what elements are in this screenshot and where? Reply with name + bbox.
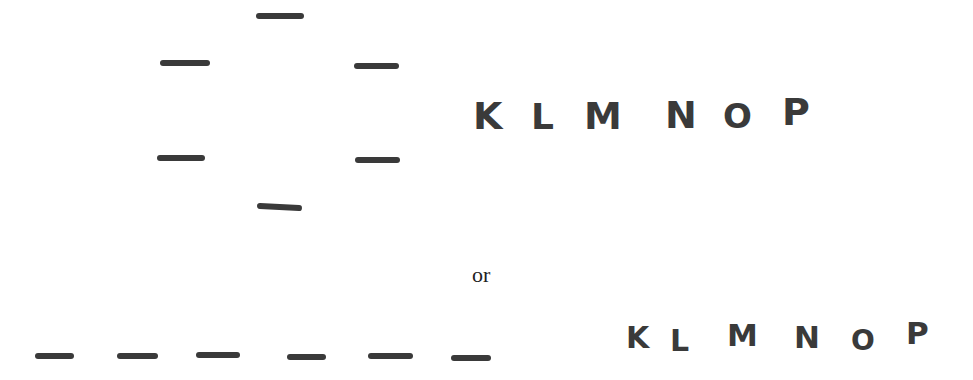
letter-l-top: L	[531, 99, 554, 135]
letter-p-top: P	[782, 93, 810, 131]
blank-line-6	[451, 355, 491, 361]
blank-circle-top	[256, 13, 304, 19]
or-label: or	[472, 264, 490, 286]
blank-circle-upper-right	[354, 63, 399, 69]
blank-line-3	[196, 352, 240, 358]
blank-circle-bottom	[257, 203, 302, 211]
letter-o-bottom: O	[851, 327, 875, 355]
letter-n-top: N	[665, 96, 697, 134]
letter-n-bottom: N	[794, 322, 820, 353]
blank-circle-lower-left	[157, 155, 205, 161]
blank-circle-lower-right	[355, 157, 400, 163]
puzzle-figure: K L M N O P or K L M N O P	[0, 0, 973, 380]
letter-m-top: M	[584, 97, 622, 135]
letter-k-bottom: K	[626, 323, 649, 353]
blank-line-2	[117, 353, 158, 359]
blank-line-1	[35, 353, 74, 359]
letter-k-top: K	[473, 97, 502, 135]
letter-o-top: O	[723, 99, 752, 133]
blank-circle-upper-left	[160, 60, 210, 66]
letter-l-bottom: L	[670, 326, 689, 356]
blank-line-5	[368, 353, 413, 359]
blank-line-4	[287, 354, 326, 360]
letter-m-bottom: M	[727, 320, 758, 351]
letter-p-bottom: P	[906, 318, 929, 349]
